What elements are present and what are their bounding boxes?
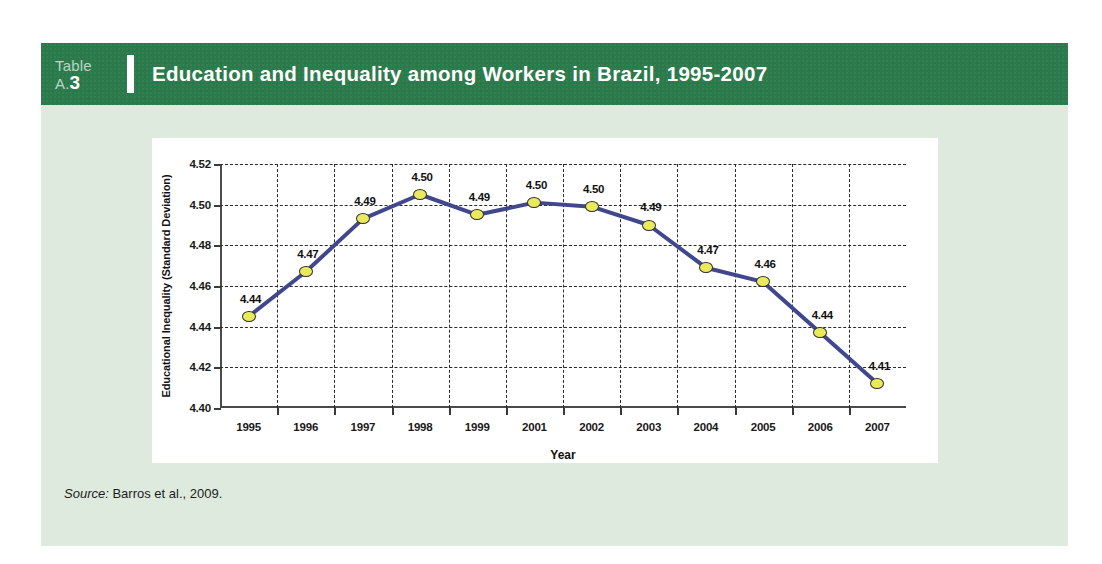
data-point-label: 4.49: [354, 195, 375, 207]
table-header-bar: Table A.3 Education and Inequality among…: [41, 43, 1068, 105]
data-point: [413, 189, 427, 200]
x-tick: [735, 408, 737, 415]
x-tick: [392, 408, 394, 415]
x-tick-label: 2007: [865, 421, 890, 433]
y-tick-label: 4.44: [189, 321, 211, 333]
y-tick-label: 4.52: [189, 158, 211, 170]
y-tick: [214, 408, 221, 410]
y-tick-label: 4.40: [189, 402, 211, 414]
chart-card: Educational Inequality (Standard Deviati…: [152, 138, 938, 463]
y-tick-label: 4.50: [189, 199, 211, 211]
data-point-label: 4.46: [754, 258, 775, 270]
y-axis-title: Educational Inequality (Standard Deviati…: [158, 164, 174, 408]
data-point: [585, 201, 599, 212]
x-tick-label: 1998: [408, 421, 433, 433]
data-point-label: 4.50: [583, 183, 604, 195]
x-tick: [563, 408, 565, 415]
x-axis-title: Year: [220, 448, 906, 462]
data-point: [642, 220, 656, 231]
plot-area: 4.404.424.444.464.484.504.52 19951996199…: [220, 164, 906, 408]
x-tick-label: 2006: [808, 421, 833, 433]
source-note: Source: Barros et al., 2009.: [64, 486, 222, 501]
x-tick-label: 1999: [465, 421, 490, 433]
data-point-label: 4.49: [640, 201, 661, 213]
source-text: Barros et al., 2009.: [109, 486, 222, 501]
data-point-label: 4.49: [469, 191, 490, 203]
header-divider-rule: [127, 55, 134, 93]
source-label: Source:: [64, 486, 109, 501]
y-tick-label: 4.48: [189, 239, 211, 251]
x-tick: [334, 408, 336, 415]
data-point-label: 4.44: [240, 293, 261, 305]
table-prefix: A.: [55, 75, 70, 92]
table-word: Table: [55, 57, 127, 74]
y-tick-label: 4.46: [189, 280, 211, 292]
data-point-label: 4.47: [697, 244, 718, 256]
table-number: 3: [70, 72, 81, 93]
table-title: Education and Inequality among Workers i…: [152, 62, 767, 86]
x-tick-label: 2003: [636, 421, 661, 433]
table-number-label: Table A.3: [55, 57, 127, 92]
series-line: [220, 164, 906, 408]
x-tick: [792, 408, 794, 415]
x-tick: [849, 408, 851, 415]
data-point-label: 4.50: [411, 171, 432, 183]
data-point-label: 4.47: [297, 248, 318, 260]
data-point-label: 4.41: [869, 360, 890, 372]
data-point: [299, 266, 313, 277]
y-axis-title-text: Educational Inequality (Standard Deviati…: [160, 174, 172, 397]
x-tick: [506, 408, 508, 415]
x-tick-label: 2004: [694, 421, 719, 433]
x-tick-label: 2002: [579, 421, 604, 433]
x-tick-label: 1997: [351, 421, 376, 433]
x-tick: [449, 408, 451, 415]
x-tick: [677, 408, 679, 415]
data-point-label: 4.44: [812, 309, 833, 321]
table-identifier: A.3: [55, 74, 127, 92]
data-point-label: 4.50: [526, 179, 547, 191]
y-tick-label: 4.42: [189, 361, 211, 373]
x-tick-label: 2001: [522, 421, 547, 433]
data-point: [242, 311, 256, 322]
x-tick-label: 1995: [236, 421, 261, 433]
x-tick-label: 1996: [293, 421, 318, 433]
x-tick-label: 2005: [751, 421, 776, 433]
x-tick: [620, 408, 622, 415]
x-tick: [277, 408, 279, 415]
